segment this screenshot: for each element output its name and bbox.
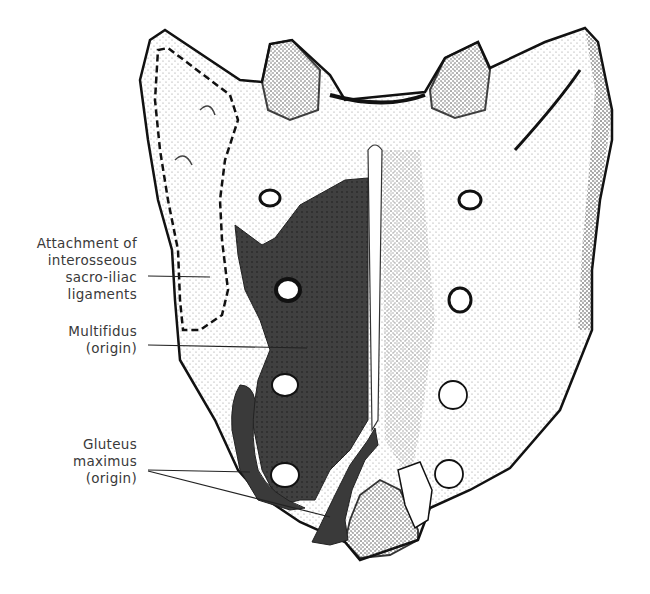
label-line: ligaments — [0, 286, 137, 303]
label-line: maximus — [0, 453, 137, 470]
label-gluteus-maximus: Gluteus maximus (origin) — [0, 436, 137, 487]
foramen-left-1 — [260, 190, 280, 206]
foramen-right-2 — [449, 288, 471, 312]
foramen-left-4 — [271, 463, 299, 487]
left-superior-articular-process — [262, 40, 320, 120]
label-line: sacro-iliac — [0, 269, 137, 286]
foramen-left-2 — [276, 279, 300, 301]
label-line: interosseous — [0, 252, 137, 269]
label-line: (origin) — [0, 340, 137, 357]
label-line: Gluteus — [0, 436, 137, 453]
foramen-right-4 — [435, 460, 463, 488]
foramen-right-3 — [439, 381, 467, 409]
foramen-right-1 — [459, 191, 481, 209]
right-superior-articular-process — [430, 42, 490, 118]
label-interosseous-ligaments: Attachment of interosseous sacro-iliac l… — [0, 235, 137, 303]
label-line: Multifidus — [0, 323, 137, 340]
label-line: (origin) — [0, 470, 137, 487]
leader-gluteus-lateral — [148, 470, 250, 472]
foramen-left-3 — [272, 374, 298, 396]
label-line: Attachment of — [0, 235, 137, 252]
label-multifidus: Multifidus (origin) — [0, 323, 137, 357]
